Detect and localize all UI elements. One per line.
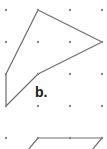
grid-dot (37, 105, 39, 107)
grid-dot (101, 9, 103, 11)
grid-dot (5, 9, 7, 11)
grid-dot (37, 73, 39, 75)
grid-dot (101, 137, 103, 139)
diagram-svg (0, 0, 107, 149)
grid-dot (5, 41, 7, 43)
grid-dot (5, 137, 7, 139)
grid-dot (37, 137, 39, 139)
grid-dot (101, 105, 103, 107)
grid-dot (101, 41, 103, 43)
grid-dot (37, 41, 39, 43)
grid-dot (5, 105, 7, 107)
grid-dot (5, 73, 7, 75)
grid-dot (101, 73, 103, 75)
grid-dot (69, 41, 71, 43)
grid-dot (69, 105, 71, 107)
shape-label-b: b. (35, 85, 47, 99)
grid-dot (69, 73, 71, 75)
polygon-b (6, 10, 102, 106)
grid-dot (69, 137, 71, 139)
grid-dot (69, 9, 71, 11)
grid-dot (37, 9, 39, 11)
dot-grid-diagram (0, 0, 107, 149)
polygon-c-partial (28, 138, 102, 149)
